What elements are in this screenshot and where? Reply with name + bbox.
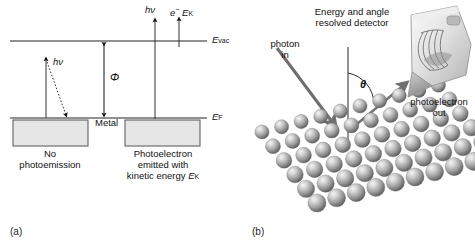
panel-a-diagram xyxy=(0,0,475,250)
lattice-atom xyxy=(276,153,292,169)
lattice-atom xyxy=(445,158,463,176)
figure-root: hν e− EK Evac EF Φ hν Metal No photoemis… xyxy=(0,0,475,250)
vacuum-level-label: Evac xyxy=(212,34,229,46)
work-function-label: Φ xyxy=(110,72,119,83)
lattice-atom xyxy=(376,159,393,176)
panel-b-label: (b) xyxy=(252,226,264,237)
lattice-atom xyxy=(305,128,320,143)
lattice-atom xyxy=(385,140,402,157)
caption-line: photon xyxy=(270,38,299,49)
detector-caption: Energy and angle resolved detector xyxy=(315,6,389,28)
no-photoemission-caption: No photoemission xyxy=(19,148,80,170)
lattice-atom xyxy=(294,115,308,129)
lattice-atom xyxy=(287,166,304,183)
photoelectron-caption: Photoelectron emitted with kinetic energ… xyxy=(127,148,199,182)
detector-body xyxy=(408,6,471,97)
fermi-level-label: EF xyxy=(212,111,223,123)
caption-line: in xyxy=(270,49,299,60)
lattice-atom xyxy=(394,121,410,137)
caption-line: photoelectron xyxy=(410,96,468,107)
lattice-atom xyxy=(275,120,289,134)
lattice-atom xyxy=(337,170,354,187)
lattice-atom xyxy=(383,108,398,123)
lattice-atom xyxy=(326,156,343,173)
lattice-atom xyxy=(308,194,326,212)
lattice-atom xyxy=(392,89,406,103)
caption-line: resolved detector xyxy=(315,17,389,28)
electron-kinetic-label: e− EK xyxy=(170,4,193,19)
lattice-atom xyxy=(333,104,347,118)
lattice-atom xyxy=(266,139,281,154)
fermi-level-subscript: F xyxy=(218,114,222,121)
caption-line: No xyxy=(19,148,80,159)
lattice-atom xyxy=(424,130,441,147)
panel-a-label: (a) xyxy=(10,226,22,237)
lattice-atom xyxy=(404,135,421,152)
caption-line: Energy and angle xyxy=(315,6,389,17)
kinetic-energy-subscript: K xyxy=(188,10,193,17)
lattice-atom xyxy=(415,149,432,166)
caption-line: emitted with xyxy=(127,159,199,170)
lattice-atom xyxy=(356,165,373,182)
metal-block-right xyxy=(125,120,200,146)
metal-label: Metal xyxy=(95,117,118,128)
photon-left-label: hν xyxy=(53,56,63,67)
lattice-atom xyxy=(395,154,412,171)
electron-charge-superscript: − xyxy=(175,6,179,13)
lattice-atom xyxy=(285,134,300,149)
lattice-atom xyxy=(255,125,269,139)
lattice-atom xyxy=(374,127,390,143)
vacuum-level-subscript: vac xyxy=(218,37,229,44)
caption-line: Photoelectron xyxy=(127,148,199,159)
photoelectron-out-caption: photoelectron out xyxy=(410,96,468,118)
lattice-atom xyxy=(296,147,312,163)
lattice-atom xyxy=(365,146,382,163)
caption-line: out xyxy=(410,107,468,118)
lattice-atom xyxy=(364,113,379,128)
lattice-atom xyxy=(413,116,429,132)
metal-block-left xyxy=(13,120,88,146)
photon-top-label: hν xyxy=(145,4,155,15)
kinetic-energy-subscript: K xyxy=(194,173,199,180)
lattice-atom xyxy=(386,173,404,191)
lattice-atom xyxy=(463,120,475,137)
caption-text: kinetic energy xyxy=(127,170,186,181)
lattice-atom xyxy=(355,132,371,148)
lattice-atom xyxy=(315,142,331,158)
lattice-atom xyxy=(346,151,363,168)
lattice-atom xyxy=(435,144,452,161)
lattice-atom xyxy=(347,184,365,202)
lattice-atom xyxy=(406,168,424,186)
lattice-atom xyxy=(335,137,351,153)
lattice-atom xyxy=(314,109,328,123)
photon-in-caption: photon in xyxy=(270,38,299,60)
lattice-atom xyxy=(373,94,387,108)
lattice-atom xyxy=(324,123,339,138)
lattice-atom xyxy=(353,99,367,113)
lattice-atom xyxy=(444,125,461,142)
theta-label: θ xyxy=(360,79,366,90)
lattice-atom xyxy=(344,118,359,133)
lattice-atom xyxy=(328,189,346,207)
lattice-atom xyxy=(426,163,444,181)
lattice-atom xyxy=(297,180,314,197)
relaxation-dashed-arrow xyxy=(47,62,66,115)
lattice-atom xyxy=(306,161,323,178)
caption-line: photoemission xyxy=(19,159,80,170)
lattice-atom xyxy=(454,139,471,156)
lattice-atom xyxy=(367,178,385,196)
detector-port-icon xyxy=(447,16,460,25)
lattice-atom xyxy=(317,175,334,192)
caption-line: kinetic energy EK xyxy=(127,170,199,182)
